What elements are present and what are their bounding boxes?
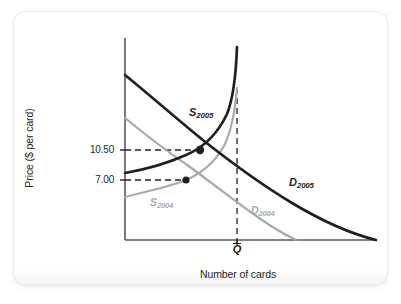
curve-label-d2004: D2004: [251, 204, 275, 216]
curve-label-d2005-base: D: [289, 176, 297, 188]
curve-label-s2005: S2005: [189, 106, 213, 118]
curve-label-s2004-base: S: [150, 196, 157, 208]
figure-page: Price ($ per card) Number of cards 10.50…: [0, 0, 401, 304]
curve-label-s2004: S2004: [150, 196, 173, 208]
curve-label-s2005-year: 2005: [196, 111, 213, 120]
equilibrium-point-2005: [196, 146, 204, 154]
equilibrium-point-2004: [182, 176, 189, 183]
curve-d2004: [125, 118, 296, 240]
curve-label-d2004-year: 2004: [259, 209, 275, 218]
curve-label-d2004-base: D: [251, 204, 259, 216]
curve-label-d2005: D2005: [289, 176, 314, 188]
y-tick-label-700: 7.00: [66, 174, 114, 185]
x-axis-title: Number of cards: [148, 268, 328, 280]
qbar-letter: Q: [233, 243, 242, 255]
y-tick-label-1050: 10.50: [66, 144, 114, 155]
supply-demand-plot: [0, 0, 401, 304]
y-axis-title: Price ($ per card): [23, 86, 35, 210]
x-tick-label-qbar: Q: [225, 243, 249, 255]
curve-label-d2005-year: 2005: [297, 181, 314, 190]
curve-label-s2004-year: 2004: [157, 201, 173, 210]
